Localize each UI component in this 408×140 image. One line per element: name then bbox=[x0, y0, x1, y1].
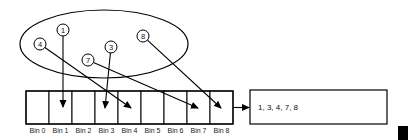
bin-label: Bin 0 bbox=[30, 127, 46, 134]
element-label: 3 bbox=[109, 43, 113, 52]
bin-cell bbox=[210, 91, 233, 124]
bin-label: Bin 2 bbox=[76, 127, 92, 134]
bin-array: Bin 0Bin 1Bin 2Bin 3Bin 4Bin 5Bin 6Bin 7… bbox=[26, 91, 233, 134]
element-label: 8 bbox=[141, 32, 145, 41]
bin-label: Bin 5 bbox=[145, 127, 161, 134]
bin-label: Bin 3 bbox=[99, 127, 115, 134]
bin-cell bbox=[72, 91, 95, 124]
element-label: 4 bbox=[38, 40, 42, 49]
element-label: 7 bbox=[86, 56, 90, 65]
result-list: 1, 3, 4, 7, 8 bbox=[233, 90, 387, 124]
element-label: 1 bbox=[61, 26, 65, 35]
set-elements: 14378 bbox=[34, 24, 149, 66]
hash-bin-diagram: Bin 0Bin 1Bin 2Bin 3Bin 4Bin 5Bin 6Bin 7… bbox=[0, 0, 408, 140]
bin-cell bbox=[187, 91, 210, 124]
result-text: 1, 3, 4, 7, 8 bbox=[258, 103, 299, 112]
bin-label: Bin 7 bbox=[191, 127, 207, 134]
bin-cell bbox=[141, 91, 164, 124]
corner-block bbox=[398, 126, 408, 140]
bin-label: Bin 1 bbox=[53, 127, 69, 134]
bin-cell bbox=[26, 91, 49, 124]
bin-label: Bin 8 bbox=[214, 127, 230, 134]
bin-label: Bin 6 bbox=[168, 127, 184, 134]
bin-label: Bin 4 bbox=[122, 127, 138, 134]
bin-cell bbox=[164, 91, 187, 124]
bin-cell bbox=[49, 91, 72, 124]
